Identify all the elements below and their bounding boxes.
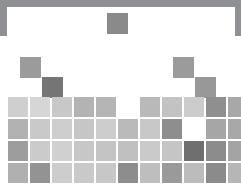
grid-r3-c5[interactable] — [96, 141, 116, 161]
grid-r4-c1[interactable] — [8, 163, 28, 183]
grid-r3-c3[interactable] — [52, 141, 72, 161]
grid-r2-c3[interactable] — [52, 119, 72, 139]
grid-r1-c7[interactable] — [140, 97, 160, 117]
grid-r2-c5[interactable] — [96, 119, 116, 139]
grid-r1-c9[interactable] — [184, 97, 204, 117]
grid-r2-c4[interactable] — [74, 119, 94, 139]
grid-r1-c4[interactable] — [74, 97, 94, 117]
grid-r3-c7[interactable] — [140, 141, 160, 161]
grid-r2-c6[interactable] — [118, 119, 138, 139]
upper-right-tile[interactable] — [173, 57, 194, 78]
upper-left-tile[interactable] — [20, 57, 41, 78]
grid-r1-c8[interactable] — [162, 97, 182, 117]
mid-left-tile[interactable] — [42, 77, 63, 98]
grid-r2-c1[interactable] — [8, 119, 28, 139]
grid-r1-c3[interactable] — [52, 97, 72, 117]
grid-r1-c11[interactable] — [228, 97, 241, 117]
grid-r4-c7[interactable] — [140, 163, 160, 183]
grid-r4-c4[interactable] — [74, 163, 94, 183]
grid-r2-c8[interactable] — [162, 119, 182, 139]
top-isolated-tile[interactable] — [107, 13, 128, 34]
grid-r4-c2[interactable] — [30, 163, 50, 183]
grid-r3-c6[interactable] — [118, 141, 138, 161]
grid-r4-c6[interactable] — [118, 163, 138, 183]
grid-r1-c5[interactable] — [96, 97, 116, 117]
grid-r2-c11[interactable] — [228, 119, 241, 139]
grid-r3-c4[interactable] — [74, 141, 94, 161]
grid-r4-c5[interactable] — [96, 163, 116, 183]
heatmap-screenshot — [0, 0, 241, 186]
grid-r2-c7[interactable] — [140, 119, 160, 139]
grid-r4-c3[interactable] — [52, 163, 72, 183]
grid-r4-c9[interactable] — [184, 163, 204, 183]
grid-r4-c10[interactable] — [206, 163, 226, 183]
grid-r2-c2[interactable] — [30, 119, 50, 139]
grid-r3-c8[interactable] — [162, 141, 182, 161]
grid-r3-c11[interactable] — [228, 141, 241, 161]
grid-r3-c2[interactable] — [30, 141, 50, 161]
grid-r1-c1[interactable] — [8, 97, 28, 117]
mid-right-tile[interactable] — [195, 77, 216, 98]
grid-r1-c2[interactable] — [30, 97, 50, 117]
grid-r3-c9[interactable] — [184, 141, 204, 161]
heatmap-tile-layer — [0, 0, 241, 186]
grid-r3-c1[interactable] — [8, 141, 28, 161]
grid-r2-c10[interactable] — [206, 119, 226, 139]
grid-r3-c10[interactable] — [206, 141, 226, 161]
grid-r4-c11[interactable] — [228, 163, 241, 183]
grid-r4-c8[interactable] — [162, 163, 182, 183]
grid-r1-c10[interactable] — [206, 97, 226, 117]
